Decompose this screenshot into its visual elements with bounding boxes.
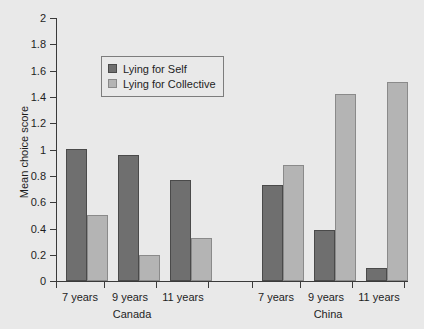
- legend-label-collective: Lying for Collective: [123, 78, 216, 90]
- x-label-canada-11: 11 years: [155, 291, 211, 303]
- bar-canada-9-self: [118, 155, 139, 281]
- x-tick-2: [156, 282, 157, 288]
- x-tick-4: [252, 282, 253, 288]
- chart-legend: Lying for Self Lying for Collective: [101, 56, 224, 97]
- x-label-canada-7: 7 years: [52, 291, 108, 303]
- bar-canada-9-collective: [139, 255, 160, 281]
- x-label-canada-9: 9 years: [104, 291, 156, 303]
- y-tick-label-2: 2: [8, 13, 46, 24]
- group-label-china: China: [290, 308, 366, 320]
- y-tick-label-1.8: 1.8: [8, 39, 46, 50]
- y-tick-label-0.8: 0.8: [8, 171, 46, 182]
- bar-canada-11-self: [170, 180, 191, 281]
- y-tick-label-1.6: 1.6: [8, 66, 46, 77]
- bar-canada-11-collective: [191, 238, 212, 281]
- legend-swatch-collective-icon: [108, 79, 117, 88]
- bar-china-11-self: [366, 268, 387, 281]
- y-tick-label-1.2: 1.2: [8, 118, 46, 129]
- x-tick-end: [404, 282, 405, 288]
- y-tick-label-0.6: 0.6: [8, 197, 46, 208]
- legend-swatch-self-icon: [108, 64, 117, 73]
- bar-chart: Mean choice score 0 0.2 0.4 0.6 0.8 1 1.…: [0, 0, 424, 329]
- x-tick-3: [208, 282, 209, 288]
- bar-china-7-self: [262, 185, 283, 281]
- x-tick-5: [300, 282, 301, 288]
- x-tick-6: [352, 282, 353, 288]
- x-tick-start: [56, 282, 57, 288]
- y-tick-label-1: 1: [8, 145, 46, 156]
- bar-china-7-collective: [283, 165, 304, 281]
- legend-label-self: Lying for Self: [123, 63, 187, 75]
- y-tick-label-0: 0: [8, 276, 46, 287]
- bar-canada-7-collective: [87, 215, 108, 281]
- x-tick-1: [104, 282, 105, 288]
- y-tick-label-0.4: 0.4: [8, 224, 46, 235]
- bar-china-11-collective: [387, 82, 408, 281]
- x-label-china-11: 11 years: [351, 291, 407, 303]
- y-tick-label-0.2: 0.2: [8, 250, 46, 261]
- x-axis-line: [56, 281, 408, 282]
- x-label-china-7: 7 years: [248, 291, 304, 303]
- group-label-canada: Canada: [94, 308, 170, 320]
- bar-china-9-collective: [335, 94, 356, 281]
- bar-china-9-self: [314, 230, 335, 281]
- bar-canada-7-self: [66, 149, 87, 281]
- legend-item-self: Lying for Self: [108, 61, 216, 76]
- x-label-china-9: 9 years: [300, 291, 352, 303]
- legend-item-collective: Lying for Collective: [108, 76, 216, 91]
- y-tick-label-1.4: 1.4: [8, 92, 46, 103]
